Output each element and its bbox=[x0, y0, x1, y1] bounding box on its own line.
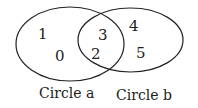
element-both-2: 2 bbox=[91, 45, 101, 63]
element-b-only-2: 5 bbox=[136, 44, 146, 62]
venn-diagram: 1 0 3 2 4 5 Circle a Circle b bbox=[0, 0, 198, 108]
circle-a bbox=[16, 7, 124, 81]
label-circle-b: Circle b bbox=[116, 87, 172, 103]
label-circle-a: Circle a bbox=[39, 85, 94, 101]
element-both-1: 3 bbox=[98, 26, 108, 44]
element-a-only-2: 0 bbox=[55, 47, 65, 65]
element-b-only-1: 4 bbox=[129, 17, 139, 35]
element-a-only-1: 1 bbox=[38, 25, 48, 43]
